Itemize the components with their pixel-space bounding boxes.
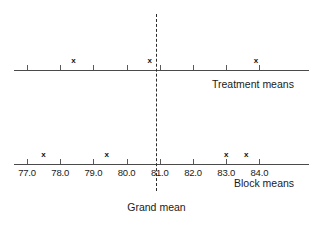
- block-means-axis: [14, 164, 309, 165]
- block-axis-tick-79.0: [93, 159, 94, 164]
- grand-mean-line: [156, 14, 157, 191]
- block-mean-marker: x: [102, 150, 112, 160]
- x-tick-label-77.0: 77.0: [12, 167, 42, 178]
- treatment-axis-tick-81.0: [160, 65, 161, 70]
- treatment-axis-tick-78.0: [60, 65, 61, 70]
- grand-mean-label: Grand mean: [96, 201, 216, 213]
- treatment-mean-marker: x: [251, 56, 261, 66]
- x-tick-label-81.0: 81.0: [145, 167, 175, 178]
- block-mean-marker: x: [39, 150, 49, 160]
- block-axis-tick-77.0: [27, 159, 28, 164]
- x-tick-label-82.0: 82.0: [178, 167, 208, 178]
- block-axis-tick-80.0: [127, 159, 128, 164]
- treatment-mean-marker: x: [145, 56, 155, 66]
- block-axis-tick-78.0: [60, 159, 61, 164]
- x-tick-label-79.0: 79.0: [78, 167, 108, 178]
- treatment-axis-tick-77.0: [27, 65, 28, 70]
- block-mean-marker: x: [221, 150, 231, 160]
- treatment-axis-tick-82.0: [193, 65, 194, 70]
- treatment-axis-tick-80.0: [127, 65, 128, 70]
- block-mean-marker: x: [241, 150, 251, 160]
- treatment-axis-tick-83.0: [226, 65, 227, 70]
- treatment-axis-tick-79.0: [93, 65, 94, 70]
- treatment-means-axis: [14, 70, 309, 71]
- block-axis-tick-84.0: [259, 159, 260, 164]
- x-tick-label-80.0: 80.0: [112, 167, 142, 178]
- dotplot-chart: xxx Treatment means xxxx 77.078.079.080.…: [0, 0, 321, 231]
- block-axis-tick-81.0: [160, 159, 161, 164]
- block-axis-tick-82.0: [193, 159, 194, 164]
- block-means-label: Block means: [234, 177, 294, 189]
- treatment-means-label: Treatment means: [212, 78, 294, 90]
- treatment-mean-marker: x: [68, 56, 78, 66]
- x-tick-label-78.0: 78.0: [45, 167, 75, 178]
